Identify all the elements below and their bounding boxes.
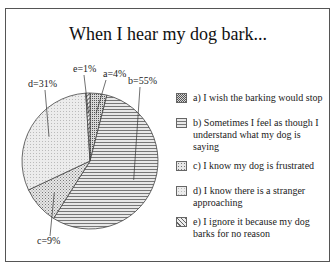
legend-item-a: a) I wish the barking would stop — [176, 92, 326, 104]
legend-swatch-c — [176, 161, 187, 171]
legend-item-c: c) I know my dog is frustrated — [176, 160, 326, 172]
legend-item-e: e) I ignore it because my dog barks for … — [176, 216, 326, 240]
legend-item-b: b) Sometimes I feel as though I understa… — [176, 117, 326, 153]
legend-label-e: e) I ignore it because my dog barks for … — [193, 216, 310, 239]
legend-label-d: d) I know there is a stranger approachin… — [193, 185, 305, 208]
slice-label-d: d=31% — [28, 78, 57, 89]
legend-label-b: b) Sometimes I feel as though I understa… — [193, 117, 319, 152]
legend-label-a: a) I wish the barking would stop — [193, 92, 322, 103]
legend-swatch-e — [176, 217, 187, 227]
slice-label-c: c=9% — [37, 235, 60, 246]
legend-swatch-a — [176, 93, 187, 103]
legend-item-d: d) I know there is a stranger approachin… — [176, 185, 326, 209]
legend-label-c: c) I know my dog is frustrated — [193, 160, 314, 171]
legend-swatch-d — [176, 186, 187, 196]
slice-label-e: e=1% — [73, 63, 96, 74]
slice-label-b: b=55% — [128, 75, 157, 86]
legend-swatch-b — [176, 118, 187, 128]
legend: a) I wish the barking would stop b) Some… — [176, 92, 326, 240]
slice-label-a: a=4% — [103, 68, 126, 79]
